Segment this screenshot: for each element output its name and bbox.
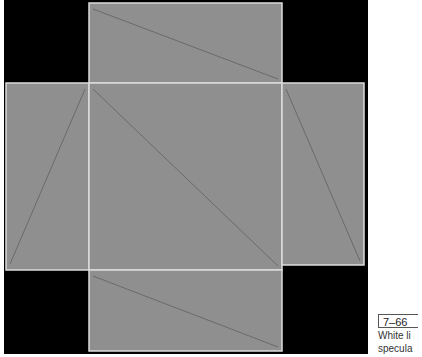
caption-line-2: specula bbox=[378, 342, 422, 355]
caption-line-1: White li bbox=[378, 329, 422, 342]
panel-center bbox=[89, 83, 282, 270]
panel-bottom bbox=[89, 270, 282, 351]
figure-number: 7–66 bbox=[378, 314, 418, 328]
panel-right bbox=[282, 83, 364, 265]
panel-left bbox=[6, 83, 89, 270]
panel-top bbox=[89, 3, 282, 83]
figure-caption: White li specula bbox=[378, 329, 422, 355]
